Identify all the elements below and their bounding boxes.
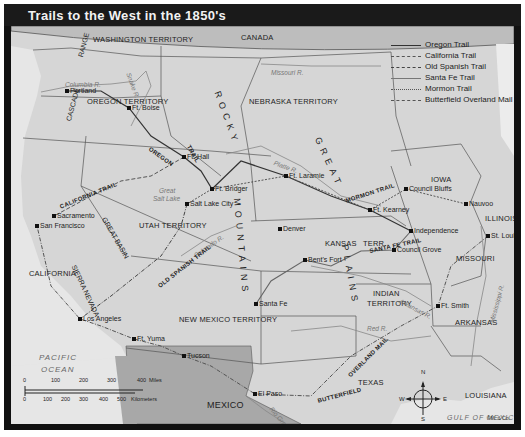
- place-label: Ft. Bridger: [215, 185, 248, 192]
- label-illinois: ILLINOIS: [485, 215, 514, 223]
- scale-mi-300: 300: [107, 378, 116, 384]
- place-label: Denver: [283, 225, 306, 232]
- compass-w: W: [399, 396, 405, 402]
- place-marker: [284, 174, 288, 178]
- label-louisiana: LOUISIANA: [465, 392, 507, 400]
- label-great-salt-lake-1: Great: [159, 188, 175, 195]
- place-marker: [65, 89, 69, 93]
- label-canada: CANADA: [241, 34, 273, 42]
- place-label: Portland: [70, 87, 96, 94]
- scale-km-0: 0: [23, 397, 26, 403]
- place-marker: [52, 214, 56, 218]
- place-label: Salt Lake City: [190, 200, 233, 207]
- place-marker: [182, 354, 186, 358]
- legend-label: Santa Fe Trail: [425, 73, 475, 82]
- place-label: Council Bluffs: [409, 185, 452, 192]
- place-label: Ft. Laramie: [289, 172, 324, 179]
- place-marker: [127, 106, 131, 110]
- place-marker: [409, 229, 413, 233]
- legend-swatch: [391, 67, 421, 68]
- scale-km-100: 100: [43, 397, 52, 403]
- place-label: Bent's Fort: [308, 256, 342, 263]
- scale-mi-400: 400: [137, 378, 146, 384]
- place-label: Sacramento: [57, 212, 95, 219]
- label-iowa: IOWA: [431, 176, 452, 184]
- place-marker: [392, 248, 396, 252]
- place-marker: [278, 227, 282, 231]
- place-marker: [436, 304, 440, 308]
- place-marker: [368, 208, 372, 212]
- place-label: Council Grove: [397, 246, 441, 253]
- legend-swatch: [391, 45, 421, 46]
- place-label: Los Angeles: [83, 315, 121, 322]
- label-mexico: MEXICO: [207, 401, 244, 410]
- place-marker: [464, 202, 468, 206]
- place-label: Ft. Boise: [132, 104, 160, 111]
- place-marker: [253, 392, 257, 396]
- map-frame: Trails to the West in the 1850's: [4, 4, 521, 430]
- label-red-river: Red R.: [367, 326, 387, 333]
- scale-km-500: 500: [117, 397, 126, 403]
- scale-mi-0: 0: [23, 378, 26, 384]
- place-label: Independence: [414, 227, 458, 234]
- legend-label: Mormon Trail: [425, 84, 472, 93]
- label-indian-1: INDIAN: [373, 290, 400, 298]
- map-title: Trails to the West in the 1850's: [28, 8, 226, 23]
- place-label: St. Louis: [491, 232, 514, 239]
- compass-s: S: [421, 416, 425, 422]
- place-marker: [182, 155, 186, 159]
- scale-km-unit: Kilometers: [131, 397, 157, 403]
- label-pacific-1: PACIFIC: [39, 354, 77, 362]
- legend-label: California Trail: [425, 51, 476, 60]
- scale-km-300: 300: [79, 397, 88, 403]
- compass-e: E: [443, 396, 447, 402]
- place-label: Ft. Yuma: [137, 335, 165, 342]
- scale-km-200: 200: [61, 397, 70, 403]
- legend-label: Butterfield Overland Mail: [425, 95, 513, 104]
- place-label: El Paso: [258, 390, 282, 397]
- place-marker: [404, 187, 408, 191]
- place-marker: [254, 302, 258, 306]
- label-new-mexico: NEW MEXICO TERRITORY: [179, 316, 277, 324]
- place-label: Ft. Hall: [187, 153, 209, 160]
- place-marker: [185, 202, 189, 206]
- label-california: CALIFORNIA: [29, 270, 76, 278]
- label-texas: TEXAS: [358, 379, 384, 387]
- legend-swatch: [391, 89, 421, 90]
- scale-mi-200: 200: [79, 378, 88, 384]
- label-great-salt-lake-2: Salt Lake: [153, 196, 180, 203]
- place-marker: [303, 258, 307, 262]
- legend-swatch: [391, 78, 421, 79]
- map-canvas: Oregon Trail California Trail Old Spanis…: [11, 26, 514, 424]
- label-missouri: MISSOURI: [456, 255, 495, 263]
- compass-n: N: [421, 369, 425, 375]
- copyright: ©M. & Co.: [487, 415, 510, 421]
- place-marker: [78, 317, 82, 321]
- place-label: Ft. Smith: [441, 302, 469, 309]
- title-bar: Trails to the West in the 1850's: [4, 4, 521, 26]
- place-marker: [132, 337, 136, 341]
- scale-mi-100: 100: [51, 378, 60, 384]
- scale-miles-unit: Miles: [149, 378, 162, 384]
- place-label: Santa Fe: [259, 300, 287, 307]
- place-marker: [210, 187, 214, 191]
- legend-label: Old Spanish Trail: [425, 62, 486, 71]
- label-missouri-river: Missouri R.: [271, 70, 304, 77]
- label-nebraska: NEBRASKA TERRITORY: [249, 98, 338, 106]
- place-label: Ft. Kearney: [373, 206, 409, 213]
- label-washington: WASHINGTON TERRITORY: [93, 36, 193, 44]
- place-label: Nauvoo: [469, 200, 493, 207]
- scale-km-400: 400: [99, 397, 108, 403]
- legend-label: Oregon Trail: [425, 40, 469, 49]
- label-pacific-2: OCEAN: [41, 366, 74, 374]
- label-utah: UTAH TERRITORY: [139, 222, 207, 230]
- legend-swatch: [391, 56, 421, 57]
- place-marker: [35, 224, 39, 228]
- legend-swatch: [391, 100, 421, 101]
- place-label: San Francisco: [40, 222, 85, 229]
- place-marker: [486, 234, 490, 238]
- place-label: Tucson: [187, 352, 210, 359]
